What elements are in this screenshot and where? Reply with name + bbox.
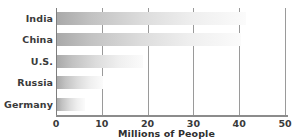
y-tick-label-germany: Germany [0,99,53,110]
y-tick-label-us: U.S. [0,56,53,67]
bar-chart: India China U.S. Russia Germany 0 10 20 … [0,0,307,139]
bar-russia [57,76,103,89]
y-tick-label-russia: Russia [0,77,53,88]
bar-series [57,8,286,115]
bar-india [57,12,246,25]
y-tick-label-china: China [0,34,53,45]
x-axis-line [56,115,288,117]
bar-row [57,94,286,115]
bar-us [57,55,143,68]
bar-row [57,51,286,72]
bar-row [57,8,286,29]
bar-germany [57,98,85,111]
x-axis-title-wrap: Millions of People [0,128,307,139]
bar-row [57,29,286,50]
bar-china [57,33,241,46]
y-axis-labels: India China U.S. Russia Germany [0,8,53,115]
x-axis-title: Millions of People [118,128,215,139]
y-tick-label-india: India [0,13,53,24]
bar-row [57,72,286,93]
